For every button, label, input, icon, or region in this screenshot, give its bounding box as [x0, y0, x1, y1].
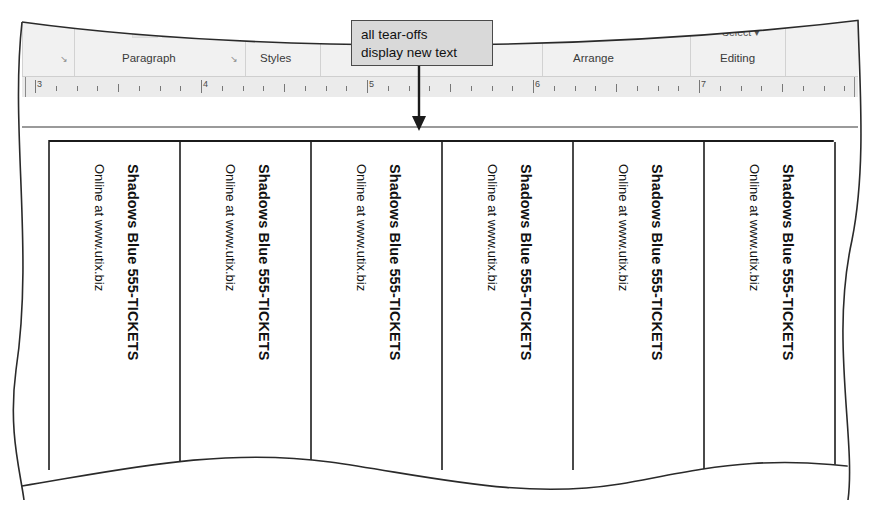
ruler-number: 6: [535, 79, 540, 89]
ruler-tick-minor: [263, 86, 264, 91]
ruler-tick-minor: [678, 86, 679, 91]
tearoff-subtitle: Online at www.utix.biz: [354, 164, 369, 464]
tearoff-divider: [441, 142, 443, 470]
ruler-tick-minor: [326, 86, 327, 91]
ruler-tick-major: [699, 80, 700, 93]
tearoff-cell[interactable]: Shadows Blue 555-TICKETSOnline at www.ut…: [441, 142, 572, 470]
tearoff-divider: [703, 142, 705, 470]
ruler-tick-minor: [118, 84, 119, 92]
tearoff-divider: [179, 142, 181, 470]
ruler-tick-minor: [471, 86, 472, 91]
ruler-tick-minor: [554, 86, 555, 91]
ruler-tick-minor: [844, 86, 845, 91]
align-button[interactable]: Align: [532, 30, 555, 42]
ruler-tick-minor: [595, 86, 596, 91]
select-dropdown-button[interactable]: Select ▾: [722, 26, 760, 38]
document-top-boundary: [22, 126, 858, 128]
ribbon-button-ghost[interactable]: [162, 20, 188, 38]
paragraph-dialog-launcher-icon[interactable]: ↘: [58, 54, 69, 65]
ribbon-separator: [542, 18, 543, 76]
ribbon-group-label-paragraph: Paragraph: [122, 52, 176, 64]
ruler-tick-minor: [512, 86, 513, 91]
ruler-tick-major: [533, 80, 534, 93]
ribbon-button-ghost[interactable]: [192, 20, 218, 38]
annotation-callout: all tear-offs display new text: [351, 20, 493, 66]
ruler-tick-minor: [305, 86, 306, 91]
styles-dialog-launcher-icon[interactable]: ↘: [228, 54, 239, 65]
ruler-tick-major: [367, 80, 368, 93]
ruler-tick-minor: [782, 84, 783, 92]
ruler-tick-minor: [284, 84, 285, 92]
ruler-tick-minor: [388, 86, 389, 91]
screenshot-root: Text Box Text ▾ Align Select ▾ ↘ Paragra…: [0, 0, 879, 525]
tearoff-title: Shadows Blue 555-TICKETS: [518, 164, 534, 464]
tearoff-title: Shadows Blue 555-TICKETS: [125, 164, 141, 464]
ribbon-separator: [320, 18, 321, 76]
tearoff-title: Shadows Blue 555-TICKETS: [387, 164, 403, 464]
tearoff-cell[interactable]: Shadows Blue 555-TICKETSOnline at www.ut…: [703, 142, 834, 470]
ribbon-group-label-editing: Editing: [720, 52, 755, 64]
ruler-tick-minor: [450, 84, 451, 92]
ribbon-separator: [74, 18, 75, 76]
tearoff-divider: [48, 142, 50, 470]
ribbon-separator: [690, 18, 691, 76]
ruler-tick-major: [201, 80, 202, 93]
ruler-tick-minor: [243, 86, 244, 91]
ruler-tick-minor: [658, 86, 659, 91]
ruler-tick-minor: [616, 84, 617, 92]
ruler-tick-minor: [160, 86, 161, 91]
ruler-margin-marker[interactable]: [25, 77, 26, 97]
ruler-tick-minor: [492, 86, 493, 91]
tearoff-cell[interactable]: Shadows Blue 555-TICKETSOnline at www.ut…: [310, 142, 441, 470]
ruler-tick-minor: [637, 86, 638, 91]
tearoff-subtitle: Online at www.utix.biz: [747, 164, 762, 464]
horizontal-ruler[interactable]: 34567: [22, 76, 858, 98]
ruler-number: 3: [37, 79, 42, 89]
ribbon-button-ghost[interactable]: [132, 20, 158, 38]
ruler-tick-minor: [409, 86, 410, 91]
ruler-tick-minor: [77, 86, 78, 91]
ruler-tick-minor: [139, 86, 140, 91]
tearoff-title: Shadows Blue 555-TICKETS: [780, 164, 796, 464]
tearoff-title: Shadows Blue 555-TICKETS: [649, 164, 665, 464]
ruler-tick-minor: [56, 86, 57, 91]
ribbon-separator: [22, 18, 23, 76]
ruler-tick-minor: [575, 86, 576, 91]
tearoff-cell[interactable]: Shadows Blue 555-TICKETSOnline at www.ut…: [572, 142, 703, 470]
ruler-tick-minor: [346, 86, 347, 91]
tearoff-cell[interactable]: Shadows Blue 555-TICKETSOnline at www.ut…: [48, 142, 179, 470]
tearoff-cell[interactable]: Shadows Blue 555-TICKETSOnline at www.ut…: [179, 142, 310, 470]
ruler-tick-minor: [741, 86, 742, 91]
ruler-tick-minor: [180, 86, 181, 91]
tearoff-subtitle: Online at www.utix.biz: [223, 164, 238, 464]
ruler-tick-minor: [761, 86, 762, 91]
ruler-number: 5: [369, 79, 374, 89]
callout-line-2: display new text: [361, 44, 483, 62]
tearoff-subtitle: Online at www.utix.biz: [92, 164, 107, 464]
ruler-tick-minor: [720, 86, 721, 91]
tearoff-subtitle: Online at www.utix.biz: [485, 164, 500, 464]
ruler-tick-minor: [803, 86, 804, 91]
tearoff-table: Shadows Blue 555-TICKETSOnline at www.ut…: [48, 140, 834, 470]
ruler-margin-marker[interactable]: [854, 77, 855, 97]
ruler-tick-minor: [429, 86, 430, 91]
ruler-tick-minor: [97, 86, 98, 91]
tearoff-subtitle: Online at www.utix.biz: [616, 164, 631, 464]
ruler-number: 7: [701, 79, 706, 89]
tearoff-title: Shadows Blue 555-TICKETS: [256, 164, 272, 464]
tearoff-divider: [834, 142, 836, 470]
ruler-number: 4: [203, 79, 208, 89]
ribbon-group-label-arrange: Arrange: [573, 52, 614, 64]
ruler-tick-major: [35, 80, 36, 93]
callout-line-1: all tear-offs: [361, 26, 483, 44]
ruler-tick-minor: [222, 86, 223, 91]
ruler-tick-minor: [824, 86, 825, 91]
ribbon-separator: [785, 18, 786, 76]
ribbon-group-label-styles: Styles: [260, 52, 291, 64]
tearoff-divider: [572, 142, 574, 470]
ribbon-button-ghost[interactable]: [222, 20, 248, 38]
tearoff-divider: [310, 142, 312, 470]
